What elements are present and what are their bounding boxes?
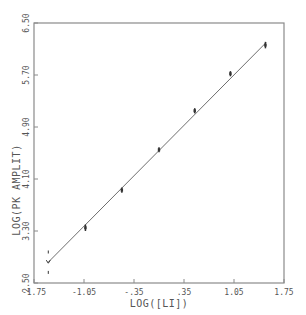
chart: -1.75-1.05-.35.351.051.75 2.503.304.104.… xyxy=(0,0,306,315)
y-tick-label: 2.50 xyxy=(22,273,31,292)
data-point xyxy=(229,71,231,76)
x-axis-title: LOG([LI]) xyxy=(130,298,189,309)
data-point xyxy=(194,108,196,113)
x-tick-label: 1.75 xyxy=(274,288,293,297)
x-tick-label: -1.05 xyxy=(72,288,96,297)
x-axis-ticks: -1.75-1.05-.35.351.051.75 xyxy=(22,279,294,297)
y-axis-title: LOG(PK AMPLIT) xyxy=(11,144,22,235)
y-tick-label: 3.30 xyxy=(22,221,31,240)
y-tick-label: 6.50 xyxy=(22,13,31,32)
y-tick-label: 5.70 xyxy=(22,65,31,84)
y-tick-label: 4.90 xyxy=(22,117,31,136)
x-tick-label: -.35 xyxy=(124,288,143,297)
y-axis-ticks: 2.503.304.104.905.706.50 xyxy=(22,13,38,292)
data-points xyxy=(46,42,266,274)
y-tick-label: 4.10 xyxy=(22,169,31,188)
x-tick-label: .35 xyxy=(177,288,192,297)
x-tick-label: 1.05 xyxy=(224,288,243,297)
fit-line xyxy=(48,43,266,263)
